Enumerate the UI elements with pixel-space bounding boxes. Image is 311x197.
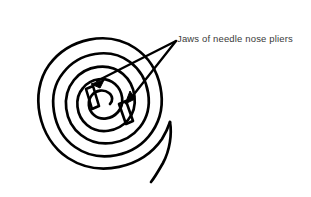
diagram-canvas: Jaws of needle nose pliers <box>0 0 311 197</box>
spiral-path <box>38 38 170 168</box>
jaw-lower <box>119 101 133 124</box>
annotation-arrows <box>91 41 176 104</box>
wire-spiral <box>38 38 170 182</box>
annotation-label: Jaws of needle nose pliers <box>177 33 293 44</box>
arrow-to-upper-jaw <box>97 41 176 81</box>
spiral-figure <box>0 0 311 197</box>
